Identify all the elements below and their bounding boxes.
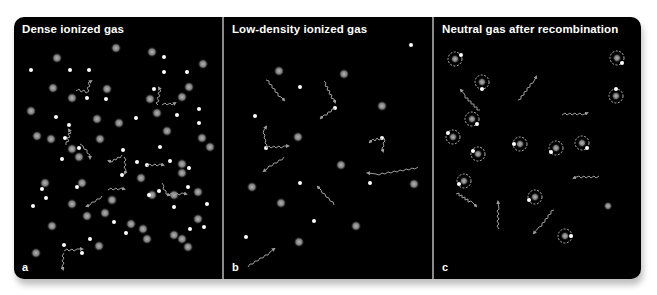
panel-b: Low-density ionized gas b <box>224 17 432 279</box>
protons <box>26 43 216 259</box>
panel-c: Neutral gas after recombination c <box>434 17 641 279</box>
neutral-gas-illustration <box>434 17 641 279</box>
panel-title: Low-density ionized gas <box>232 23 367 35</box>
panel-a: Dense ionized gas a <box>14 17 222 279</box>
panel-title: Dense ionized gas <box>22 23 124 35</box>
panel-title: Neutral gas after recombination <box>442 23 618 35</box>
figure-frame: Dense ionized gas a <box>14 17 641 279</box>
dense-ionized-gas-illustration <box>14 17 222 279</box>
panel-label: a <box>22 261 28 273</box>
low-density-ionized-gas-illustration <box>224 17 432 279</box>
panel-label: b <box>232 261 239 273</box>
protons <box>247 66 420 248</box>
electrons <box>244 43 413 239</box>
panel-label: c <box>442 261 448 273</box>
photons <box>248 80 418 267</box>
